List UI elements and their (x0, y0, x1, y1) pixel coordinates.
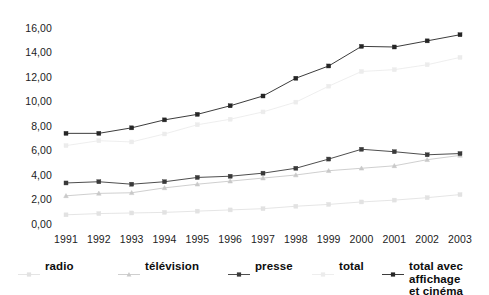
line-chart: 0,002,004,006,008,0010,0012,0014,0016,00… (0, 0, 489, 295)
data-point (163, 180, 167, 184)
legend-label: radio (45, 260, 74, 273)
data-point (130, 182, 134, 186)
legend-square-marker-icon (18, 265, 40, 283)
data-point (130, 126, 134, 130)
data-point (392, 198, 396, 202)
y-tick-label: 16,00 (0, 22, 52, 34)
data-point (261, 171, 265, 175)
data-point (458, 193, 462, 197)
y-tick-label: 4,00 (0, 169, 52, 181)
y-tick-label: 0,00 (0, 218, 52, 230)
data-point (360, 147, 364, 151)
data-point (163, 132, 167, 136)
legend-item-total-avec-affichage[interactable]: total avec affichage et cinéma (382, 260, 489, 295)
data-point (294, 76, 298, 80)
data-point (294, 100, 298, 104)
data-point (261, 110, 265, 114)
data-point (228, 104, 232, 108)
data-point (261, 94, 265, 98)
data-point (425, 196, 429, 200)
series-4 (64, 55, 462, 147)
legend-item-t-l-vision[interactable]: télévision (118, 260, 199, 283)
legend-item-radio[interactable]: radio (18, 260, 74, 283)
legend-item-presse[interactable]: presse (228, 260, 293, 283)
data-point (228, 208, 232, 212)
data-point (97, 131, 101, 135)
data-point (425, 153, 429, 157)
y-tick-label: 6,00 (0, 144, 52, 156)
data-point (195, 123, 199, 127)
legend-label: presse (255, 260, 293, 273)
series-5 (64, 33, 462, 136)
series-3 (64, 147, 462, 186)
data-point (327, 64, 331, 68)
data-point (64, 144, 68, 148)
data-point (228, 174, 232, 178)
y-tick-label: 8,00 (0, 120, 52, 132)
y-tick-label: 2,00 (0, 193, 52, 205)
data-point (163, 210, 167, 214)
legend-triangle-marker-icon (118, 265, 140, 283)
data-point (392, 68, 396, 72)
data-point (392, 150, 396, 154)
data-point (64, 181, 68, 185)
data-point (425, 63, 429, 67)
data-point (195, 112, 199, 116)
data-point (360, 44, 364, 48)
series-line (66, 35, 460, 134)
data-point (327, 84, 331, 88)
y-tick-label: 12,00 (0, 71, 52, 83)
data-point (360, 200, 364, 204)
plot-area (0, 0, 489, 295)
legend-square-marker-icon (382, 265, 404, 283)
y-tick-label: 14,00 (0, 46, 52, 58)
data-point (97, 212, 101, 216)
series-2 (64, 153, 463, 198)
data-point (97, 139, 101, 143)
legend-label: télévision (145, 260, 199, 273)
data-point (458, 55, 462, 59)
y-tick-label: 10,00 (0, 95, 52, 107)
data-point (294, 166, 298, 170)
series-line (66, 57, 460, 145)
chart-legend: radiotélévisionpressetotaltotal avec aff… (0, 258, 489, 295)
data-point (458, 33, 462, 37)
legend-square-marker-icon (228, 265, 250, 283)
data-point (458, 152, 462, 156)
data-point (360, 69, 364, 73)
data-point (228, 117, 232, 121)
legend-square-marker-icon (312, 265, 334, 283)
data-point (195, 209, 199, 213)
data-point (294, 204, 298, 208)
data-point (327, 157, 331, 161)
data-point (163, 118, 167, 122)
series-line (66, 195, 460, 215)
legend-item-total[interactable]: total (312, 260, 364, 283)
data-point (64, 131, 68, 135)
x-tick-label: 2003 (440, 233, 480, 245)
data-point (97, 180, 101, 184)
data-point (392, 45, 396, 49)
series-1 (64, 193, 462, 217)
data-point (327, 202, 331, 206)
legend-label: total (339, 260, 364, 273)
data-point (195, 175, 199, 179)
data-point (64, 213, 68, 217)
data-point (130, 140, 134, 144)
data-point (425, 39, 429, 43)
legend-label: total avec affichage et cinéma (409, 260, 489, 295)
data-point (261, 207, 265, 211)
data-point (130, 211, 134, 215)
